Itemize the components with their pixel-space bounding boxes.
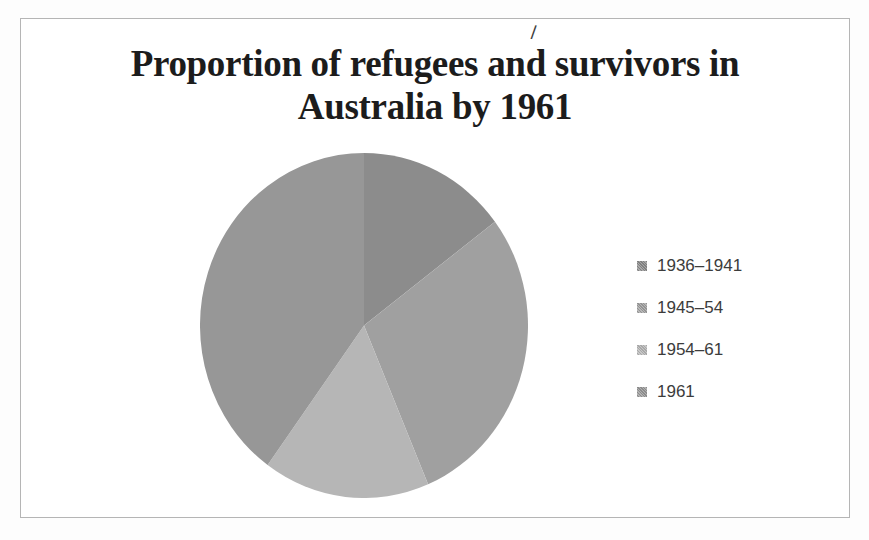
page-title: Proportion of refugees and survivors in … xyxy=(55,42,815,128)
legend-item: 1954–61 xyxy=(637,341,742,359)
pie-chart xyxy=(200,153,528,498)
legend-item: 1936–1941 xyxy=(637,257,742,275)
legend-item: 1945–54 xyxy=(637,299,742,317)
legend-swatch-icon xyxy=(637,387,647,397)
page-title-line1: Proportion of refugees and survivors in xyxy=(55,42,815,85)
page-title-line2: Australia by 1961 xyxy=(55,85,815,128)
pie-legend: 1936–19411945–541954–611961 xyxy=(637,257,742,425)
legend-item: 1961 xyxy=(637,383,742,401)
legend-label: 1961 xyxy=(657,382,695,402)
legend-label: 1936–1941 xyxy=(657,256,742,276)
legend-swatch-icon xyxy=(637,261,647,271)
legend-swatch-icon xyxy=(637,345,647,355)
legend-swatch-icon xyxy=(637,303,647,313)
legend-label: 1945–54 xyxy=(657,298,723,318)
legend-label: 1954–61 xyxy=(657,340,723,360)
